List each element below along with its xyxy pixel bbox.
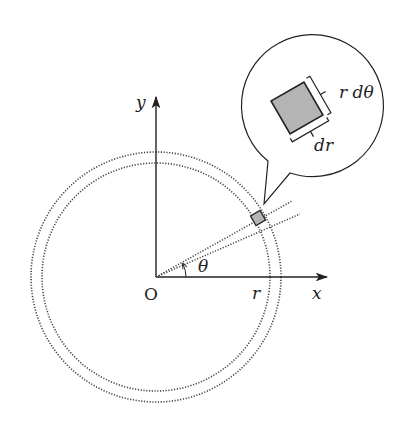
r-dtheta-label: r dθ — [339, 82, 374, 102]
radius-label: r — [252, 283, 261, 303]
dr-label: dr — [314, 135, 334, 155]
angle-label: θ — [198, 256, 208, 276]
origin-label: O — [144, 284, 158, 304]
polar-area-diagram: y x O r θ r dθ dr — [0, 0, 402, 436]
angle-arc — [183, 264, 186, 277]
y-axis-label: y — [135, 92, 146, 112]
x-axis-label: x — [312, 283, 322, 303]
ray-theta — [156, 214, 300, 277]
ray-theta-plus-dtheta — [156, 201, 292, 277]
